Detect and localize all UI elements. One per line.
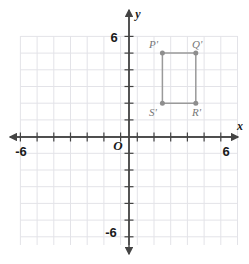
x-axis-name-label: x xyxy=(236,119,243,133)
vertex-point-p-prime xyxy=(160,51,165,56)
coordinate-plane-figure: P' Q' R' S' -6 6 6 -6 O x y xyxy=(0,0,249,264)
vertex-label-q-prime: Q' xyxy=(192,38,203,50)
x-axis-label-positive-six: 6 xyxy=(222,144,229,159)
vertex-point-q-prime xyxy=(193,51,198,56)
coordinate-plane-svg: P' Q' R' S' -6 6 6 -6 O x y xyxy=(0,0,249,264)
vertex-label-r-prime: R' xyxy=(191,106,202,118)
vertex-point-s-prime xyxy=(160,101,165,106)
y-axis-label-positive-six: 6 xyxy=(110,30,117,45)
y-axis-label-negative-six: -6 xyxy=(105,225,117,240)
vertex-point-r-prime xyxy=(193,101,198,106)
origin-label: O xyxy=(113,138,123,153)
y-axis-name-label: y xyxy=(133,7,141,21)
x-axis-label-negative-six: -6 xyxy=(15,144,27,159)
vertex-label-p-prime: P' xyxy=(148,38,159,50)
vertex-label-s-prime: S' xyxy=(149,106,158,118)
